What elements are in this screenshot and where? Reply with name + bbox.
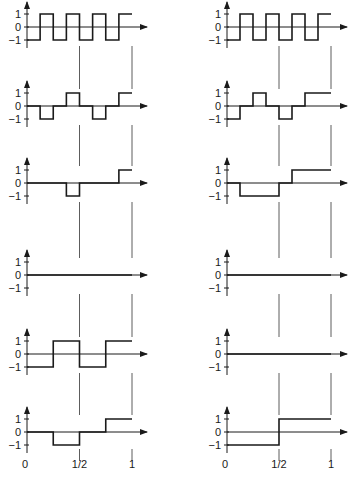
x-tick-label: 0 bbox=[222, 458, 228, 470]
y-tick-label: −1 bbox=[8, 113, 21, 125]
y-tick-label: −1 bbox=[208, 190, 221, 202]
y-tick-label: 1 bbox=[15, 413, 21, 425]
y-tick-label: −1 bbox=[208, 113, 221, 125]
panel-right-column-6: 10−1 bbox=[208, 407, 347, 453]
y-tick-label: 1 bbox=[215, 413, 221, 425]
y-tick-label: 1 bbox=[215, 8, 221, 20]
y-tick-label: 1 bbox=[15, 8, 21, 20]
y-tick-label: 0 bbox=[15, 269, 21, 281]
panel-right-column-1: 10−1 bbox=[208, 2, 347, 48]
y-tick-label: 1 bbox=[215, 87, 221, 99]
y-tick-label: −1 bbox=[208, 439, 221, 451]
panel-right-column-5: 10−1 bbox=[208, 329, 347, 375]
y-tick-label: 0 bbox=[15, 21, 21, 33]
y-tick-label: 0 bbox=[215, 21, 221, 33]
y-tick-label: −1 bbox=[8, 282, 21, 294]
y-tick-label: 1 bbox=[15, 164, 21, 176]
y-tick-label: 0 bbox=[215, 269, 221, 281]
y-tick-label: 1 bbox=[215, 335, 221, 347]
y-tick-label: −1 bbox=[8, 190, 21, 202]
x-tick-label: 1 bbox=[328, 458, 334, 470]
y-tick-label: 0 bbox=[15, 426, 21, 438]
x-axis-labels: 01/2101/21 bbox=[22, 458, 334, 470]
x-tick-label: 1/2 bbox=[72, 458, 87, 470]
y-tick-label: 0 bbox=[15, 100, 21, 112]
panel-left-column-5: 10−1 bbox=[8, 329, 147, 375]
vertical-guide-lines bbox=[80, 46, 332, 461]
x-tick-label: 0 bbox=[22, 458, 28, 470]
y-tick-label: −1 bbox=[8, 34, 21, 46]
panel-left-column-3: 10−1 bbox=[8, 158, 147, 204]
panel-right-column-4: 10−1 bbox=[208, 250, 347, 296]
y-tick-label: −1 bbox=[8, 439, 21, 451]
y-tick-label: −1 bbox=[208, 282, 221, 294]
y-tick-label: 1 bbox=[15, 87, 21, 99]
y-tick-label: 1 bbox=[215, 256, 221, 268]
panel-left-column-6: 10−1 bbox=[8, 407, 147, 453]
panel-right-column-2: 10−1 bbox=[208, 81, 347, 127]
y-tick-label: 0 bbox=[15, 177, 21, 189]
y-tick-label: 0 bbox=[215, 426, 221, 438]
y-tick-label: 1 bbox=[215, 164, 221, 176]
y-tick-label: −1 bbox=[8, 361, 21, 373]
panels: 10−110−110−110−110−110−110−110−110−110−1… bbox=[8, 2, 347, 453]
waveform-diagram: 10−110−110−110−110−110−110−110−110−110−1… bbox=[0, 0, 353, 480]
panel-right-column-3: 10−1 bbox=[208, 158, 347, 204]
y-tick-label: 0 bbox=[15, 348, 21, 360]
y-tick-label: 0 bbox=[215, 348, 221, 360]
y-tick-label: 1 bbox=[15, 335, 21, 347]
waveform-two-pulses bbox=[27, 170, 132, 196]
x-tick-label: 1 bbox=[129, 458, 135, 470]
panel-left-column-4: 10−1 bbox=[8, 250, 147, 296]
panel-left-column-2: 10−1 bbox=[8, 81, 147, 127]
y-tick-label: 1 bbox=[15, 256, 21, 268]
y-tick-label: −1 bbox=[208, 361, 221, 373]
panel-left-column-1: 10−1 bbox=[8, 2, 147, 48]
x-tick-label: 1/2 bbox=[271, 458, 286, 470]
y-tick-label: 0 bbox=[215, 100, 221, 112]
y-tick-label: −1 bbox=[208, 34, 221, 46]
y-tick-label: 0 bbox=[215, 177, 221, 189]
